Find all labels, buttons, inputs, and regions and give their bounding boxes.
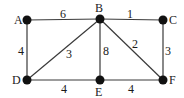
edge-BD xyxy=(27,19,100,80)
node-B xyxy=(96,15,105,24)
node-E xyxy=(96,76,105,85)
edge-weight-BF: 2 xyxy=(132,37,138,51)
edge-weight-AB: 6 xyxy=(60,7,66,21)
node-label-A: A xyxy=(14,13,23,27)
node-label-F: F xyxy=(169,73,176,87)
edge-weight-BE: 8 xyxy=(103,44,109,58)
edge-weight-AD: 4 xyxy=(18,44,24,58)
node-A xyxy=(23,16,32,25)
edges-layer xyxy=(27,19,163,80)
weighted-graph-diagram: 614382344 ABCDEF xyxy=(0,0,184,98)
node-label-D: D xyxy=(12,73,21,87)
node-label-B: B xyxy=(95,1,103,15)
edge-weight-CF: 3 xyxy=(165,44,171,58)
node-label-E: E xyxy=(95,85,102,98)
node-label-C: C xyxy=(169,13,177,27)
edge-weight-EF: 4 xyxy=(128,82,134,96)
node-labels-layer: ABCDEF xyxy=(12,1,177,98)
node-C xyxy=(159,16,168,25)
edge-weight-DE: 4 xyxy=(61,82,67,96)
node-D xyxy=(23,76,32,85)
nodes-layer xyxy=(23,15,168,85)
edge-weight-BD: 3 xyxy=(66,47,72,61)
edge-weight-BC: 1 xyxy=(127,7,133,21)
node-F xyxy=(159,76,168,85)
